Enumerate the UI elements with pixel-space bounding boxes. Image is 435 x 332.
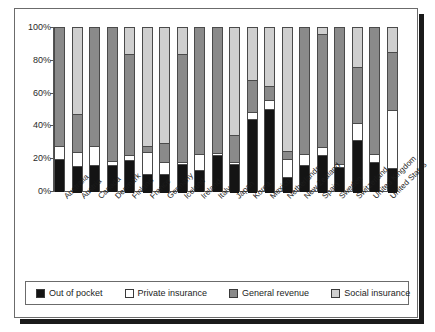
bar-segment-private-insurance	[265, 100, 274, 109]
bar-netherlands	[282, 27, 293, 191]
bar-mexico	[264, 27, 275, 191]
legend-item-general-revenue[interactable]: General revenue	[229, 288, 309, 298]
y-axis-tick-mark	[50, 125, 54, 126]
bar-segment-private-insurance	[370, 154, 379, 161]
bar-switzerland	[352, 27, 363, 191]
bar-segment-social-insurance	[160, 28, 169, 143]
bar-segment-general-revenue	[318, 34, 327, 147]
bar-segment-private-insurance	[90, 146, 99, 165]
bar-segment-social-insurance	[178, 28, 187, 54]
bar-segment-private-insurance	[143, 152, 152, 174]
legend-swatch-icon	[331, 289, 340, 298]
bar-segment-private-insurance	[388, 110, 397, 168]
y-axis-tick-label: 40%	[33, 121, 51, 130]
bar-segment-private-insurance	[283, 159, 292, 178]
y-axis-tick-mark	[50, 158, 54, 159]
y-axis-tick-mark	[50, 93, 54, 94]
legend-label: Out of pocket	[49, 288, 103, 298]
figure-drop-shadow-bottom	[20, 319, 424, 324]
bar-segment-general-revenue	[248, 80, 257, 112]
bar-segment-general-revenue	[90, 28, 99, 146]
plot-wrapper: 0%20%40%60%80%100% AustraliaAustriaCanad…	[15, 9, 419, 257]
legend-item-private-insurance[interactable]: Private insurance	[125, 288, 208, 298]
bar-segment-general-revenue	[388, 52, 397, 110]
legend-swatch-icon	[125, 289, 134, 298]
bar-segment-social-insurance	[248, 28, 257, 80]
bar-segment-general-revenue	[55, 28, 64, 146]
x-axis: AustraliaAustriaCanadaDenmarkFinlandFran…	[53, 193, 397, 255]
bar-segment-social-insurance	[265, 28, 274, 86]
bar-segment-social-insurance	[143, 28, 152, 146]
bar-australia	[54, 27, 65, 191]
y-axis-tick-mark	[50, 27, 54, 28]
bar-korea	[247, 27, 258, 191]
bar-austria	[72, 27, 83, 191]
legend-label: General revenue	[242, 288, 309, 298]
bar-segment-social-insurance	[125, 28, 134, 54]
bar-japan	[229, 27, 240, 191]
bar-segment-private-insurance	[300, 154, 309, 165]
legend-swatch-icon	[36, 289, 45, 298]
bar-segment-general-revenue	[125, 54, 134, 155]
bar-denmark	[107, 27, 118, 191]
y-axis-tick-label: 80%	[33, 55, 51, 64]
bar-italy	[212, 27, 223, 191]
bar-segment-general-revenue	[160, 143, 169, 162]
y-axis-tick-label: 20%	[33, 154, 51, 163]
y-axis-tick-mark	[50, 191, 54, 192]
bar-segment-general-revenue	[195, 28, 204, 154]
bar-iceland	[177, 27, 188, 191]
bar-segment-social-insurance	[230, 28, 239, 135]
bar-segment-general-revenue	[283, 151, 292, 158]
legend-label: Private insurance	[138, 288, 208, 298]
legend-swatch-icon	[229, 289, 238, 298]
bar-united-kingdom	[369, 27, 380, 191]
bar-united-states	[387, 27, 398, 191]
bar-france	[142, 27, 153, 191]
bar-segment-general-revenue	[335, 28, 344, 164]
chart-legend: Out of pocketPrivate insuranceGeneral re…	[25, 281, 409, 305]
bar-segment-private-insurance	[55, 146, 64, 158]
legend-item-out-of-pocket[interactable]: Out of pocket	[36, 288, 103, 298]
bar-segment-private-insurance	[353, 123, 362, 140]
y-axis: 0%20%40%60%80%100%	[17, 27, 51, 191]
legend-label: Social insurance	[344, 288, 410, 298]
bar-new-zealand	[299, 27, 310, 191]
bar-segment-social-insurance	[388, 28, 397, 52]
bar-segment-social-insurance	[73, 28, 82, 114]
bar-finland	[124, 27, 135, 191]
bar-segment-out-of-pocket	[55, 159, 64, 192]
bar-segment-general-revenue	[73, 114, 82, 152]
bar-germany	[159, 27, 170, 191]
bar-ireland	[194, 27, 205, 191]
bar-segment-general-revenue	[353, 67, 362, 123]
bar-segment-private-insurance	[318, 147, 327, 154]
chart-figure: 0%20%40%60%80%100% AustraliaAustriaCanad…	[14, 8, 418, 318]
y-axis-tick-label: 100%	[28, 23, 51, 32]
bar-segment-general-revenue	[265, 86, 274, 100]
bar-segment-social-insurance	[283, 28, 292, 151]
bar-segment-social-insurance	[353, 28, 362, 67]
bar-segment-general-revenue	[230, 135, 239, 162]
bar-segment-private-insurance	[195, 154, 204, 170]
bar-segment-private-insurance	[248, 112, 257, 119]
bar-segment-private-insurance	[73, 152, 82, 166]
bar-series-group	[54, 27, 398, 191]
bar-segment-general-revenue	[300, 28, 309, 154]
plot-area	[53, 27, 398, 192]
legend-item-social-insurance[interactable]: Social insurance	[331, 288, 410, 298]
y-axis-tick-label: 60%	[33, 88, 51, 97]
bar-segment-private-insurance	[160, 162, 169, 174]
bar-segment-general-revenue	[213, 28, 222, 153]
bar-segment-general-revenue	[108, 28, 117, 161]
bar-segment-general-revenue	[370, 28, 379, 154]
bar-segment-general-revenue	[178, 54, 187, 162]
y-axis-tick-mark	[50, 60, 54, 61]
bar-canada	[89, 27, 100, 191]
